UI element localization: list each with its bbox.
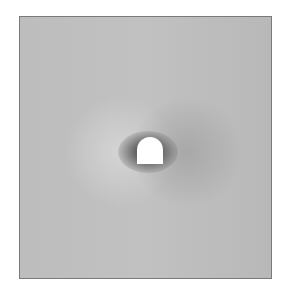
white-dome-object: [137, 137, 163, 164]
image-frame: [19, 16, 272, 279]
